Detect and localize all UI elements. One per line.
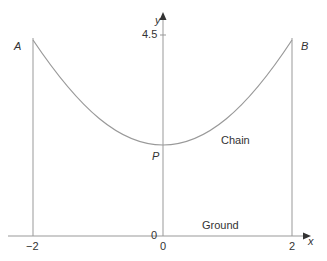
y-tick-label-0: 0 xyxy=(151,229,157,241)
catenary-diagram: A B P Chain Ground y x 4.5 0 −2 0 2 xyxy=(0,0,327,261)
point-a-label: A xyxy=(13,40,21,52)
x-tick-label-0: 0 xyxy=(160,240,166,252)
y-tick-label-4-5: 4.5 xyxy=(142,28,157,40)
x-tick-label-neg2: −2 xyxy=(26,240,39,252)
point-b-label: B xyxy=(301,40,308,52)
y-axis-arrow-icon xyxy=(160,12,167,20)
point-p-label: P xyxy=(152,150,160,162)
x-tick-label-2: 2 xyxy=(289,240,295,252)
chain-label: Chain xyxy=(221,134,250,146)
ground-label: Ground xyxy=(202,219,239,231)
x-axis-label: x xyxy=(307,235,314,247)
